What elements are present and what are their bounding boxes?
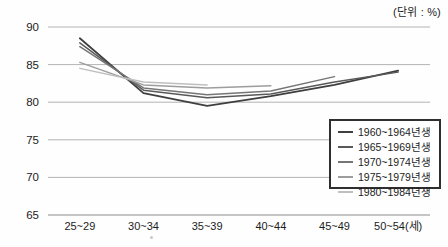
y-tick-label-70: 70: [26, 171, 39, 183]
legend-entry: 1980~1984년생: [338, 184, 434, 199]
legend-line-swatch: [338, 131, 353, 133]
x-tick-label: 50~54(세): [374, 220, 422, 232]
legend-box: 1960~1964년생1965~1969년생1970~1974년생1975~19…: [329, 119, 441, 189]
legend-line-swatch: [338, 176, 353, 178]
x-tick-label: 45~49: [319, 220, 350, 232]
legend-line-swatch: [338, 146, 353, 148]
legend-entry: 1975~1979년생: [338, 169, 434, 184]
scan-artifact-speck: [150, 236, 153, 239]
legend-entry: 1965~1969년생: [338, 139, 434, 154]
chart-canvas: (단위 : %) 90858075706525~2930~3435~3940~4…: [0, 0, 448, 247]
legend-label: 1980~1984년생: [358, 184, 431, 199]
legend-entry: 1970~1974년생: [338, 154, 434, 169]
legend-label: 1975~1979년생: [358, 169, 431, 184]
legend-label: 1970~1974년생: [358, 154, 431, 169]
legend-label: 1965~1969년생: [358, 139, 431, 154]
y-tick-label-85: 85: [26, 59, 39, 71]
x-tick-label: 35~39: [192, 220, 223, 232]
series-line-1965~1969년생: [80, 43, 398, 98]
legend-line-swatch: [338, 191, 353, 193]
y-tick-label-65: 65: [26, 209, 39, 221]
y-tick-label-75: 75: [26, 134, 39, 146]
y-tick-label-90: 90: [26, 21, 39, 33]
series-line-1980~1984년생: [80, 68, 207, 85]
y-tick-label-80: 80: [26, 96, 39, 108]
legend-label: 1960~1964년생: [358, 124, 431, 139]
x-tick-label: 40~44: [255, 220, 286, 232]
x-tick-label: 25~29: [64, 220, 95, 232]
legend-entry: 1960~1964년생: [338, 124, 434, 139]
x-tick-label: 30~34: [128, 220, 159, 232]
legend-line-swatch: [338, 161, 353, 163]
